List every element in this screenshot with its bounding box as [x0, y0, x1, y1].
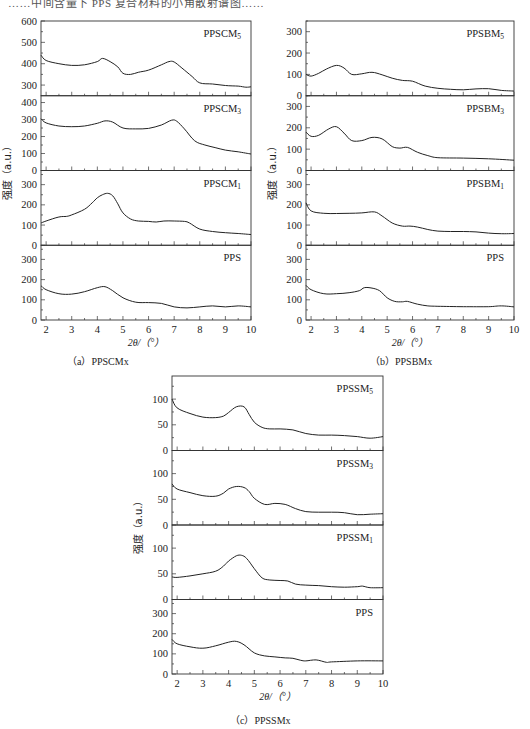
y-tick-label: 50: [158, 494, 169, 505]
x-axis-label: 2θ/（°）: [259, 691, 296, 702]
y-axis-label: 强度（a.u.）: [266, 141, 278, 200]
curve-pps: [41, 286, 251, 308]
curve-ppssm5: [172, 399, 383, 438]
y-tick-label: 300: [286, 26, 302, 37]
x-tick-label: 7: [435, 324, 440, 335]
series-label: PPSBM5: [466, 28, 504, 41]
series-label: PPSCM3: [203, 103, 241, 116]
x-tick-label: 4: [226, 678, 232, 689]
curve-ppsbm5: [306, 65, 514, 91]
y-tick-label: 0: [297, 90, 302, 101]
y-tick-label: 0: [32, 315, 37, 326]
x-tick-label: 8: [197, 324, 202, 335]
y-tick-label: 100: [286, 294, 302, 305]
x-tick-label: 4: [359, 324, 365, 335]
x-tick-label: 3: [334, 324, 339, 335]
chart-a: 300400500600PPSCM50100200300400PPSCM3010…: [1, 16, 256, 349]
y-tick-label: 0: [32, 165, 37, 176]
y-tick-label: 0: [163, 520, 168, 531]
y-tick-label: 100: [21, 220, 37, 231]
y-tick-label: 0: [297, 240, 302, 251]
y-tick-label: 0: [163, 445, 168, 456]
series-label: PPS: [486, 252, 504, 263]
curve-pps: [306, 285, 514, 307]
panel-ppssm5: 050100PPSSM5: [152, 376, 383, 456]
x-tick-label: 3: [69, 324, 74, 335]
x-tick-label: 9: [355, 678, 360, 689]
x-tick-label: 5: [120, 324, 125, 335]
chart-b: 0100200300PPSBM50100200300PPSBM301002003…: [266, 21, 519, 348]
x-axis-label: 2θ/（°）: [392, 337, 429, 348]
curve-ppscm5: [41, 55, 251, 87]
series-label: PPS: [355, 607, 373, 618]
curve-ppsbm3: [306, 127, 514, 161]
caption-c: （c）PPSSMx: [230, 712, 291, 727]
y-tick-label: 300: [21, 179, 37, 190]
y-tick-label: 50: [158, 568, 169, 579]
y-tick-label: 400: [21, 97, 37, 108]
panel-ppsbm1: 0100200300PPSBM1: [286, 171, 514, 251]
curve-pps: [172, 639, 383, 662]
panel-pps: 0100200300PPS: [286, 245, 514, 325]
y-tick-label: 0: [32, 240, 37, 251]
panel-pps: 0100200300PPS: [21, 245, 251, 325]
y-tick-label: 100: [286, 69, 302, 80]
y-tick-label: 100: [21, 148, 37, 159]
y-tick-label: 0: [297, 165, 302, 176]
series-label: PPSSM5: [337, 383, 374, 396]
y-tick-label: 200: [286, 48, 302, 59]
series-label: PPSSM3: [337, 458, 374, 471]
x-tick-label: 6: [410, 324, 415, 335]
panel-ppscm5: 300400500600PPSCM5: [21, 16, 251, 96]
y-tick-label: 200: [21, 274, 37, 285]
series-label: PPSCM1: [203, 178, 241, 191]
y-tick-label: 100: [152, 543, 168, 554]
series-label: PPS: [223, 252, 241, 263]
y-tick-label: 0: [163, 669, 168, 680]
y-tick-label: 600: [21, 16, 37, 27]
curve-ppssm3: [172, 484, 383, 515]
y-tick-label: 100: [152, 468, 168, 479]
panel-ppscm3: 0100200300400PPSCM3: [21, 96, 251, 176]
y-axis-label: 强度（a.u.）: [1, 141, 13, 200]
y-tick-label: 200: [286, 122, 302, 133]
x-tick-label: 2: [308, 324, 313, 335]
panel-pps: 0100200300PPS: [152, 600, 383, 680]
x-tick-label: 3: [200, 678, 205, 689]
y-tick-label: 50: [158, 419, 169, 430]
y-tick-label: 300: [152, 608, 168, 619]
y-tick-label: 300: [21, 80, 37, 91]
y-tick-label: 300: [286, 254, 302, 265]
x-tick-label: 8: [329, 678, 334, 689]
series-label: PPSCM5: [203, 28, 241, 41]
x-tick-label: 5: [252, 678, 257, 689]
panel-ppscm1: 0100200300PPSCM1: [21, 171, 251, 251]
y-tick-label: 100: [152, 648, 168, 659]
x-axis-label: 2θ/（°）: [128, 337, 165, 348]
x-tick-label: 6: [277, 678, 282, 689]
x-tick-label: 2: [175, 678, 180, 689]
x-tick-label: 9: [223, 324, 228, 335]
curve-ppssm1: [172, 555, 383, 588]
curve-ppscm1: [41, 193, 251, 234]
y-tick-label: 300: [286, 101, 302, 112]
y-tick-label: 200: [152, 628, 168, 639]
y-tick-label: 100: [286, 144, 302, 155]
series-label: PPSSM1: [337, 532, 374, 545]
caption-b: （b）PPSBMx: [370, 353, 432, 368]
x-tick-label: 7: [303, 678, 308, 689]
y-tick-label: 100: [152, 394, 168, 405]
x-tick-label: 10: [378, 678, 389, 689]
panel-ppsbm5: 0100200300PPSBM5: [286, 21, 514, 101]
y-tick-label: 500: [21, 37, 37, 48]
panel-ppssm1: 050100PPSSM1: [152, 525, 383, 605]
panel-ppssm3: 050100PPSSM3: [152, 451, 383, 531]
y-tick-label: 200: [21, 131, 37, 142]
series-label: PPSBM1: [466, 178, 504, 191]
y-tick-label: 300: [21, 254, 37, 265]
y-tick-label: 200: [21, 199, 37, 210]
panel-ppsbm3: 0100200300PPSBM3: [286, 96, 514, 176]
y-tick-label: 300: [21, 114, 37, 125]
x-tick-label: 7: [172, 324, 177, 335]
curve-ppsbm1: [306, 203, 514, 234]
